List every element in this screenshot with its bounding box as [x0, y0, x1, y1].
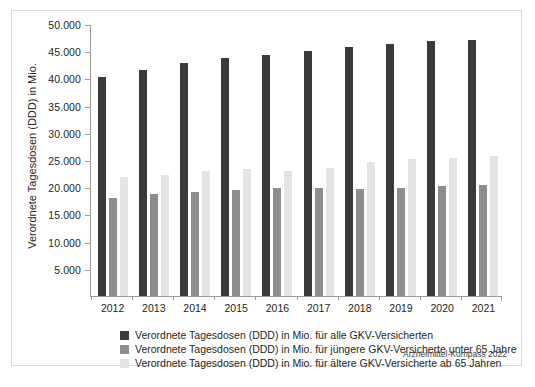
bar-group: 2019 — [386, 25, 416, 296]
x-axis-tick-mark — [255, 296, 256, 300]
bar — [180, 63, 188, 296]
y-axis-tick-mark — [85, 52, 90, 53]
y-axis-tick-label: 20.000 — [48, 182, 81, 194]
chart-figure: Verordnete Tagesdosen (DDD) in Mio. 50.0… — [11, 10, 522, 366]
x-axis-tick-label: 2012 — [93, 302, 133, 314]
bar — [326, 168, 334, 296]
y-axis-tick-label: 45.000 — [48, 46, 81, 58]
x-axis-tick-mark — [379, 296, 380, 300]
y-axis-tick-label: 50.000 — [48, 19, 81, 31]
x-axis-tick-mark — [91, 296, 92, 300]
x-axis-tick-label: 2019 — [381, 302, 421, 314]
bar — [367, 162, 375, 296]
x-axis-tick-label: 2015 — [216, 302, 256, 314]
bar — [449, 158, 457, 296]
legend-item: Verordnete Tagesdosen (DDD) in Mio. für … — [120, 329, 517, 341]
bar — [408, 159, 416, 296]
bar — [315, 188, 323, 296]
x-axis-tick-mark — [461, 296, 462, 300]
x-axis-tick-mark — [420, 296, 421, 300]
bar-group: 2018 — [345, 25, 375, 296]
bar — [490, 156, 498, 296]
x-axis-tick-label: 2013 — [134, 302, 174, 314]
bar-group: 2021 — [468, 25, 498, 296]
x-axis-tick-mark — [214, 296, 215, 300]
bar — [202, 171, 210, 296]
legend-swatch-icon — [120, 331, 129, 340]
bar — [139, 70, 147, 296]
bar — [427, 41, 435, 296]
bar — [150, 194, 158, 296]
x-axis-tick-label: 2021 — [463, 302, 503, 314]
bar — [386, 44, 394, 296]
bar-group: 2012 — [98, 25, 128, 296]
y-axis-title: Verordnete Tagesdosen (DDD) in Mio. — [24, 11, 40, 301]
y-axis-tick-label: 40.000 — [48, 73, 81, 85]
y-axis-tick-mark — [85, 243, 90, 244]
y-axis-tick-mark — [85, 270, 90, 271]
y-axis-line — [90, 25, 91, 297]
bar — [262, 55, 270, 296]
bar — [345, 47, 353, 296]
y-axis-tick-mark — [85, 161, 90, 162]
source-note: Arzneimittel-Kompass 2022 — [403, 349, 507, 359]
bar — [161, 175, 169, 296]
y-axis-tick-label: 35.000 — [48, 101, 81, 113]
x-axis-tick-mark — [132, 296, 133, 300]
bar-group: 2017 — [304, 25, 334, 296]
x-axis-tick-label: 2020 — [422, 302, 462, 314]
bar — [191, 192, 199, 296]
bar — [397, 188, 405, 296]
bar — [438, 186, 446, 296]
x-axis-tick-mark — [501, 297, 502, 301]
plot-area: 50.00045.00040.00035.00030.00025.00020.0… — [90, 25, 502, 297]
bar-group: 2020 — [427, 25, 457, 296]
legend-swatch-icon — [120, 345, 129, 354]
x-axis-tick-label: 2016 — [257, 302, 297, 314]
bar-group: 2016 — [262, 25, 292, 296]
y-axis-tick-label: 30.000 — [48, 128, 81, 140]
y-axis-tick-mark — [85, 79, 90, 80]
bar-group: 2014 — [180, 25, 210, 296]
x-axis-tick-mark — [173, 296, 174, 300]
y-axis-title-label: Verordnete Tagesdosen (DDD) in Mio. — [26, 63, 38, 249]
y-axis-tick-mark — [85, 25, 90, 26]
bar — [221, 58, 229, 296]
x-axis-tick-label: 2017 — [299, 302, 339, 314]
bar — [479, 185, 487, 296]
legend-swatch-icon — [120, 359, 129, 368]
y-axis-tick-mark — [85, 134, 90, 135]
y-axis-tick-mark — [85, 215, 90, 216]
x-axis-tick-mark — [338, 296, 339, 300]
bar — [109, 198, 117, 296]
bar — [356, 189, 364, 296]
bar — [468, 40, 476, 296]
bar — [232, 190, 240, 296]
y-axis-tick-label: 5.000 — [54, 264, 81, 276]
y-axis-tick-label: 10.000 — [48, 237, 81, 249]
bar — [273, 188, 281, 296]
bar — [120, 177, 128, 296]
bar — [304, 51, 312, 296]
bar-group: 2015 — [221, 25, 251, 296]
bar — [243, 169, 251, 296]
y-axis-tick-label: 25.000 — [48, 155, 81, 167]
x-axis-tick-label: 2014 — [175, 302, 215, 314]
bar — [98, 77, 106, 296]
legend-item-label: Verordnete Tagesdosen (DDD) in Mio. für … — [135, 329, 433, 341]
y-axis-tick-mark — [85, 107, 90, 108]
bar-group: 2013 — [139, 25, 169, 296]
y-axis-tick-mark — [85, 188, 90, 189]
x-axis-tick-label: 2018 — [340, 302, 380, 314]
x-axis-tick-mark — [297, 296, 298, 300]
bar — [284, 171, 292, 296]
y-axis-tick-label: 15.000 — [48, 209, 81, 221]
